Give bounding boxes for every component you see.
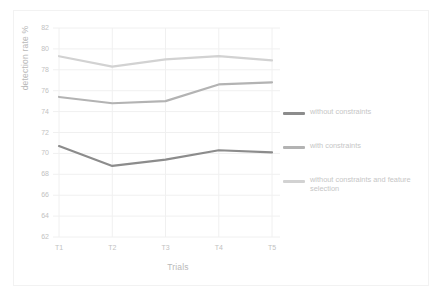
y-tick-label: 74 xyxy=(31,108,49,115)
plot-area: 8280787674727068666462 T1T2T3T4T5 detect… xyxy=(0,0,442,297)
legend-swatch-icon xyxy=(283,180,305,183)
legend-swatch-icon xyxy=(283,112,305,115)
legend-swatch-icon xyxy=(283,146,305,149)
x-tick-label: T5 xyxy=(260,244,284,251)
y-tick-label: 64 xyxy=(31,212,49,219)
y-tick-label: 80 xyxy=(31,45,49,52)
legend-item-label: without constraints and feature selectio… xyxy=(310,176,428,193)
legend-item-label: with constraints xyxy=(310,142,361,151)
y-tick-label: 72 xyxy=(31,129,49,136)
legend-item[interactable]: without constraints xyxy=(283,108,435,126)
legend-item[interactable]: with constraints xyxy=(283,142,435,160)
legend-item-label: without constraints xyxy=(310,108,371,117)
x-tick-label: T3 xyxy=(154,244,178,251)
chart-legend: without constraintswith constraintswitho… xyxy=(283,108,435,210)
y-tick-label: 62 xyxy=(31,233,49,240)
y-tick-label: 82 xyxy=(31,24,49,31)
y-tick-label: 76 xyxy=(31,87,49,94)
x-axis-title: Trials xyxy=(118,262,238,272)
y-tick-label: 78 xyxy=(31,66,49,73)
y-tick-label: 70 xyxy=(31,149,49,156)
y-axis-title: detection rate % xyxy=(20,8,30,108)
x-tick-label: T2 xyxy=(100,244,124,251)
x-tick-label: T4 xyxy=(207,244,231,251)
y-tick-label: 68 xyxy=(31,170,49,177)
y-tick-label: 66 xyxy=(31,191,49,198)
legend-item[interactable]: without constraints and feature selectio… xyxy=(283,176,435,194)
chart-figure: 8280787674727068666462 T1T2T3T4T5 detect… xyxy=(0,0,442,297)
x-tick-label: T1 xyxy=(47,244,71,251)
